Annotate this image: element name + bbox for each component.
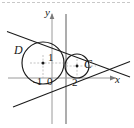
geometry-figure: D C y x 1 -1 0 2 bbox=[0, 0, 134, 128]
x-axis-label: x bbox=[115, 74, 120, 85]
circle-d-center-value-label: 1 bbox=[48, 52, 54, 63]
y-axis-label: y bbox=[45, 7, 50, 18]
x-tick-label-neg-one: -1 bbox=[33, 76, 42, 87]
origin-label-zero: 0 bbox=[47, 76, 53, 87]
x-tick-label-two: 2 bbox=[72, 77, 78, 88]
upper-tangent-line bbox=[7, 32, 130, 78]
circle-c-label: C bbox=[84, 58, 92, 70]
circle-d-label: D bbox=[14, 44, 23, 56]
geometry-canvas bbox=[0, 0, 134, 128]
y-axis-arrowhead bbox=[50, 13, 55, 19]
circle-c-center-dot bbox=[76, 65, 79, 68]
circle-d-center-dot bbox=[42, 62, 45, 65]
